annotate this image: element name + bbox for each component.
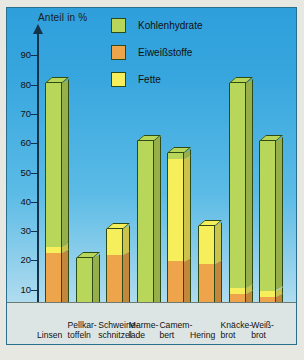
y-tick	[31, 290, 39, 291]
bar-segment	[198, 226, 215, 264]
legend-item: Fette	[111, 72, 203, 87]
y-tick-label: 80	[7, 79, 31, 90]
y-tick	[31, 55, 39, 56]
y-tick-label: 20	[7, 254, 31, 265]
y-tick	[31, 143, 39, 144]
bar-segment-side	[184, 155, 191, 261]
bar-column	[167, 153, 184, 317]
chart-figure: Anteil in % 0102030405060708090 Kohlenhy…	[0, 0, 304, 360]
y-tick-label: 60	[7, 137, 31, 148]
bar-segment	[167, 153, 184, 159]
x-axis-label: Weiß-brot	[251, 320, 291, 340]
y-tick-label: 30	[7, 225, 31, 236]
y-tick	[31, 260, 39, 261]
bar-segment-side	[246, 79, 253, 288]
y-tick	[31, 114, 39, 115]
y-tick-label: 90	[7, 49, 31, 60]
bar-segment	[45, 247, 62, 253]
legend-item: Kohlenhydrate	[111, 18, 203, 33]
y-tick-label: 10	[7, 284, 31, 295]
y-tick	[31, 173, 39, 174]
legend-label: Kohlenhydrate	[138, 20, 203, 31]
y-axis-line	[37, 32, 39, 320]
bar-segment	[229, 83, 246, 288]
y-tick	[31, 231, 39, 232]
bar-segment	[45, 83, 62, 247]
legend-item: Eiweißstoffe	[111, 45, 203, 60]
legend-swatch-icon	[111, 45, 126, 60]
bar-column	[259, 141, 276, 317]
legend-label: Fette	[138, 74, 161, 85]
axis-title: Anteil in %	[38, 12, 87, 23]
bar-segment-side	[62, 79, 69, 247]
legend-swatch-icon	[111, 18, 126, 33]
bar-segment-side	[154, 136, 161, 316]
bar-segment	[259, 291, 276, 297]
chart-plot-area: Anteil in % 0102030405060708090 Kohlenhy…	[6, 7, 297, 345]
y-tick-label: 70	[7, 108, 31, 119]
bar-segment-side	[276, 137, 283, 290]
bar-segment	[106, 229, 123, 255]
bar-segment-side	[123, 225, 130, 255]
bar-segment	[259, 141, 276, 290]
bar-segment-side	[215, 222, 222, 264]
bar-segment	[167, 159, 184, 262]
legend-swatch-icon	[111, 72, 126, 87]
chart-legend: KohlenhydrateEiweißstoffeFette	[111, 18, 203, 99]
x-axis-label-band: LinsenPellkar-toffelnSchweine-schnitzelM…	[7, 302, 296, 344]
bar-segment	[229, 288, 246, 294]
y-tick-label: 40	[7, 196, 31, 207]
y-tick	[31, 85, 39, 86]
bar-column	[137, 141, 154, 317]
legend-label: Eiweißstoffe	[138, 47, 192, 58]
bar-column	[229, 83, 246, 317]
y-tick	[31, 202, 39, 203]
bar-column	[45, 83, 62, 317]
y-tick-label: 50	[7, 167, 31, 178]
bar-segment	[137, 140, 154, 316]
